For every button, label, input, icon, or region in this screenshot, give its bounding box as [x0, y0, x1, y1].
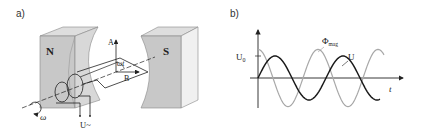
- panel-b-label: b): [230, 8, 239, 19]
- south-magnet: S: [141, 27, 198, 108]
- angle-label: ωt: [117, 59, 125, 68]
- figure: a) N S U~: [0, 0, 422, 132]
- south-magnet-side: [181, 27, 198, 108]
- panel-a: a) N S U~: [16, 8, 198, 130]
- omega-label: ω: [40, 112, 46, 122]
- flux-label: Φmag: [322, 36, 338, 47]
- vector-b-label: B: [124, 74, 129, 83]
- u0-label: U0: [236, 52, 246, 63]
- voltage-label: U~: [80, 120, 91, 130]
- panel-a-label: a): [16, 8, 25, 19]
- north-label: N: [46, 45, 54, 57]
- voltage-curve-label: U: [348, 52, 355, 62]
- panel-b: b) t U0 Φmag U: [230, 8, 403, 108]
- time-axis-label: t: [389, 84, 392, 94]
- vector-a-label: A: [108, 38, 114, 47]
- south-label: S: [163, 45, 169, 57]
